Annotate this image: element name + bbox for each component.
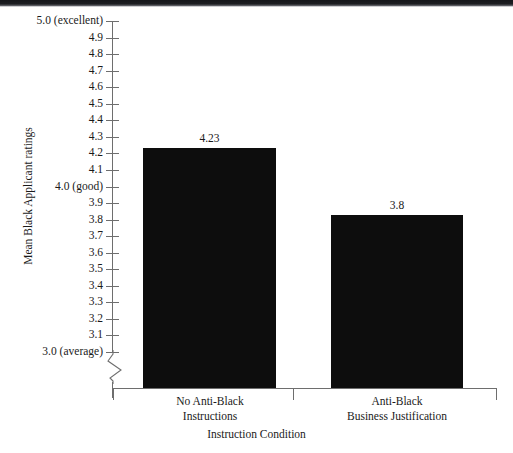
y-axis-tick-mark <box>106 187 119 188</box>
y-axis-tick-label: 4.4 <box>0 114 103 126</box>
y-axis-tick-label-text: 4.9 <box>89 32 103 44</box>
y-axis-tick-label-text: 3.6 <box>89 247 103 259</box>
y-axis-tick-mark <box>106 236 119 237</box>
x-axis-title: Instruction Condition <box>0 428 513 440</box>
y-axis-tick-mark <box>106 269 119 270</box>
y-axis-tick-label: 3.8 <box>0 214 103 226</box>
y-axis-tick-label-text: 4.8 <box>89 48 103 60</box>
y-axis-tick-label: 4.0 (good) <box>0 181 103 193</box>
y-axis-tick-label-text: 4.1 <box>89 164 103 176</box>
y-axis-tick-label-text: 3.3 <box>89 296 103 308</box>
y-axis-tick-mark <box>106 104 119 105</box>
y-axis-tick-mark <box>106 352 119 353</box>
y-axis-tick-label-text: 4.4 <box>89 114 103 126</box>
scan-edge-artifact <box>0 0 513 7</box>
y-axis-tick-mark <box>106 335 119 336</box>
y-axis-tick-mark <box>106 54 119 55</box>
y-axis-tick-label: 4.5 <box>0 98 103 110</box>
y-axis-tick-label: 3.4 <box>0 280 103 292</box>
y-axis-tick-mark <box>106 87 119 88</box>
y-axis-tick-mark <box>106 170 119 171</box>
y-axis-tick-label-text: 5.0 (excellent) <box>37 15 103 27</box>
y-axis-tick-label: 4.6 <box>0 81 103 93</box>
y-axis-tick-label-text: 3.5 <box>89 263 103 275</box>
y-axis-tick-label: 5.0 (excellent) <box>0 15 103 27</box>
y-axis-tick-label-text: 3.4 <box>89 280 103 292</box>
y-axis-tick-label-text: 3.8 <box>89 214 103 226</box>
axis-break-zigzag-icon <box>104 350 126 384</box>
y-axis-tick-label-text: 3.2 <box>89 313 103 325</box>
y-axis-tick-label-text: 4.7 <box>89 65 103 77</box>
y-axis-tick-label: 3.7 <box>0 230 103 242</box>
y-axis-tick-label-text: 4.3 <box>89 131 103 143</box>
bar-value-label: 4.23 <box>143 132 276 144</box>
y-axis-tick-label-text: 4.5 <box>89 98 103 110</box>
bar <box>143 148 276 388</box>
y-axis-tick-mark <box>106 220 119 221</box>
y-axis-tick-mark <box>106 21 119 22</box>
y-axis-tick-label: 4.7 <box>0 65 103 77</box>
x-axis-category-label-line: Business Justification <box>287 409 507 424</box>
y-axis-tick-label: 3.6 <box>0 247 103 259</box>
y-axis-tick-label: 3.0 (average) <box>0 346 103 358</box>
x-axis-line <box>112 388 496 389</box>
y-axis-tick-label: 3.3 <box>0 296 103 308</box>
bar-value-label: 3.8 <box>331 199 463 211</box>
y-axis-tick-label-text: 4.2 <box>89 147 103 159</box>
y-axis-tick-mark <box>106 120 119 121</box>
y-axis-tick-label-text: 3.1 <box>89 329 103 341</box>
y-axis-tick-mark <box>106 302 119 303</box>
y-axis-tick-mark <box>106 71 119 72</box>
y-axis-tick-mark <box>106 137 119 138</box>
x-axis-category-label: Anti-BlackBusiness Justification <box>287 394 507 423</box>
y-axis-tick-label-text: 3.0 (average) <box>42 346 103 358</box>
y-axis-tick-mark <box>106 253 119 254</box>
y-axis-tick-label: 4.3 <box>0 131 103 143</box>
y-axis-tick-mark <box>106 153 119 154</box>
bar <box>331 215 463 388</box>
y-axis-tick-label: 4.9 <box>0 32 103 44</box>
y-axis-tick-label: 4.1 <box>0 164 103 176</box>
y-axis-tick-label: 4.8 <box>0 48 103 60</box>
y-axis-tick-mark <box>106 319 119 320</box>
y-axis-tick-label: 3.1 <box>0 329 103 341</box>
y-axis-tick-label-text: 3.7 <box>89 230 103 242</box>
x-axis-category-label-line: Anti-Black <box>287 394 507 409</box>
y-axis-tick-label: 3.2 <box>0 313 103 325</box>
chart-figure: Mean Black Applicant ratings 5.0 (excell… <box>0 0 513 453</box>
y-axis-tick-mark <box>106 286 119 287</box>
y-axis-tick-label: 3.5 <box>0 263 103 275</box>
y-axis-tick-label-text: 3.9 <box>89 197 103 209</box>
y-axis-tick-mark <box>106 38 119 39</box>
y-axis-tick-label-text: 4.0 (good) <box>55 181 103 193</box>
y-axis-tick-label-text: 4.6 <box>89 81 103 93</box>
y-axis-tick-label: 3.9 <box>0 197 103 209</box>
y-axis-tick-mark <box>106 203 119 204</box>
y-axis-tick-label: 4.2 <box>0 147 103 159</box>
